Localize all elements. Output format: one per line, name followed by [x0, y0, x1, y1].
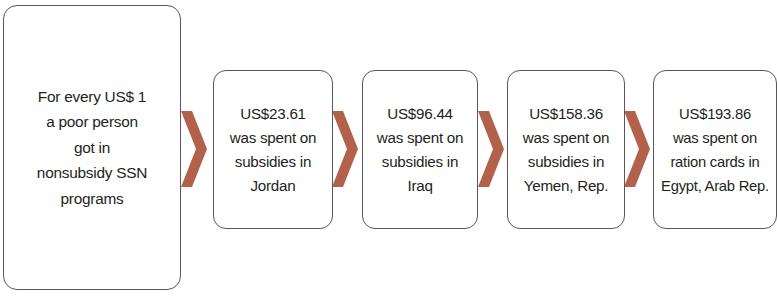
chevron-arrow-4-icon: [624, 111, 650, 187]
flow-node-step-1-line-4: Jordan: [251, 174, 296, 198]
flow-node-step-2-line-4: Iraq: [407, 174, 432, 198]
flow-node-step-4: US$193.86 was spent on ration cards in E…: [653, 70, 777, 229]
flow-node-step-4-line-2: was spent on: [673, 126, 757, 150]
chevron-arrow-3-icon: [478, 111, 504, 187]
flow-node-step-1-line-3: subsidies in: [235, 150, 311, 174]
flow-node-step-3-line-4: Yemen, Rep.: [524, 174, 609, 198]
flow-node-lead: For every US$ 1 a poor person got in non…: [3, 5, 181, 290]
flow-node-lead-line-3: got in: [74, 135, 110, 161]
flow-node-step-3-line-3: subsidies in: [528, 150, 604, 174]
flow-node-step-4-line-4: Egypt, Arab Rep.: [661, 174, 769, 198]
flow-node-step-3-line-2: was spent on: [523, 126, 610, 150]
flow-node-step-3-line-1: US$158.36: [529, 102, 603, 126]
flow-node-step-1-line-2: was spent on: [230, 126, 317, 150]
flow-node-step-2: US$96.44 was spent on subsidies in Iraq: [362, 70, 478, 229]
flow-node-step-3: US$158.36 was spent on subsidies in Yeme…: [507, 70, 625, 229]
flow-node-lead-line-1: For every US$ 1: [38, 84, 146, 110]
flow-node-lead-line-4: nonsubsidy SSN: [37, 160, 147, 186]
flow-node-step-4-line-1: US$193.86: [679, 102, 751, 126]
flow-node-step-1-line-1: US$23.61: [240, 102, 306, 126]
flow-node-step-2-line-3: subsidies in: [382, 150, 458, 174]
flow-node-step-2-line-2: was spent on: [377, 126, 464, 150]
flow-node-step-1: US$23.61 was spent on subsidies in Jorda…: [213, 70, 333, 229]
flow-node-lead-line-5: programs: [60, 186, 123, 212]
flow-node-step-2-line-1: US$96.44: [387, 102, 453, 126]
chevron-arrow-1-icon: [181, 111, 207, 187]
chevron-arrow-2-icon: [332, 111, 358, 187]
flow-node-step-4-line-3: ration cards in: [670, 150, 759, 174]
flow-node-lead-line-2: a poor person: [46, 109, 138, 135]
